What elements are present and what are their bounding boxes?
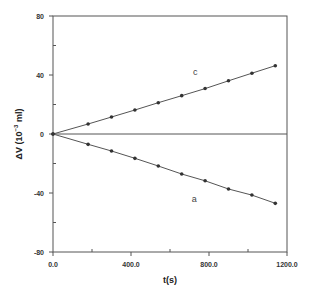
x-tick-label: 400.0 [122,261,140,268]
line-chart: 0.0400.0800.01200.0-80-4004080 ca t(s) Δ… [0,0,309,296]
data-point-marker [157,101,161,105]
data-point-marker [110,115,114,119]
data-point-marker [250,71,254,75]
y-tick-label: -40 [34,190,44,197]
data-point-marker [250,193,254,197]
data-point-marker [133,108,137,112]
data-point-marker [274,64,278,68]
y-tick-label: 80 [36,13,44,20]
data-point-marker [110,149,114,153]
plot-frame [53,16,287,252]
y-tick-label: 40 [36,72,44,79]
data-point-marker [274,202,278,206]
series-c: c [51,64,277,136]
series-label: c [193,67,198,77]
data-point-marker [203,87,207,91]
data-point-marker [133,157,137,161]
x-axis-title: t(s) [163,275,177,285]
data-point-marker [227,187,231,191]
x-tick-label: 800.0 [200,261,218,268]
data-point-marker [180,172,184,176]
data-series: ca [51,64,277,205]
data-point-marker [157,164,161,168]
data-point-marker [180,94,184,98]
data-point-marker [203,179,207,183]
series-label: a [192,194,197,204]
x-tick-label: 1200.0 [276,261,298,268]
data-point-marker [86,122,90,126]
data-point-marker [227,79,231,83]
y-tick-label: 0 [40,131,44,138]
y-tick-label: -80 [34,249,44,256]
data-point-marker [51,132,55,136]
series-a: a [51,132,277,205]
x-tick-label: 0.0 [48,261,58,268]
y-axis-title: ΔV (10−3 ml) [13,109,24,160]
data-point-marker [86,143,90,147]
